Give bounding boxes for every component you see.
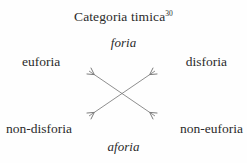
figure-title-text: Categoria timica (74, 9, 165, 24)
term-disforia: disforia (186, 55, 227, 69)
diagonal-arrow-euforia-non-euforia (89, 71, 155, 116)
figure-title: Categoria timica30 (0, 10, 247, 24)
diagonal-arrow-disforia-non-disforia (89, 71, 155, 116)
term-aforia: aforia (0, 140, 247, 153)
semiotic-square-figure: Categoria timica30 foria euforia disfori… (0, 0, 247, 163)
term-foria: foria (0, 36, 247, 49)
footnote-marker: 30 (165, 9, 173, 18)
term-non-euforia: non-euforia (180, 122, 243, 136)
term-euforia: euforia (22, 55, 60, 69)
term-non-disforia: non-disforia (6, 122, 72, 136)
